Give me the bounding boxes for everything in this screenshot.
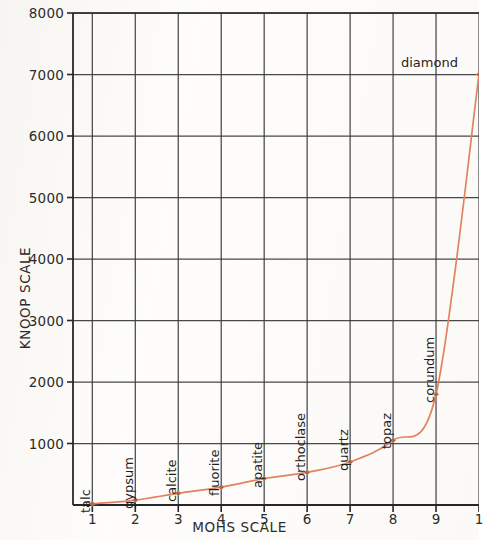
mineral-label-diamond: diamond bbox=[401, 55, 458, 70]
mineral-label-gypsum: gypsum bbox=[121, 457, 136, 509]
data-marker bbox=[476, 72, 479, 77]
mineral-label-orthoclase: orthoclase bbox=[293, 413, 308, 481]
x-axis-title: MOHS SCALE bbox=[0, 519, 479, 535]
mineral-label-talc: talc bbox=[78, 489, 93, 513]
data-curve bbox=[92, 75, 479, 504]
y-tick-label: 4000 bbox=[2, 251, 64, 267]
y-tick-label: 5000 bbox=[2, 190, 64, 206]
mineral-label-apatite: apatite bbox=[250, 442, 265, 488]
gridlines bbox=[73, 13, 479, 505]
y-axis-title: KNOOP SCALE bbox=[17, 238, 33, 358]
y-tick-label: 2000 bbox=[2, 374, 64, 390]
y-tick-label: 8000 bbox=[2, 5, 64, 21]
x-tick-marks bbox=[92, 505, 479, 512]
mineral-label-calcite: calcite bbox=[164, 460, 179, 503]
mineral-label-quartz: quartz bbox=[336, 429, 351, 471]
mineral-label-topaz: topaz bbox=[379, 413, 394, 449]
y-tick-label: 7000 bbox=[2, 67, 64, 83]
y-tick-label: 6000 bbox=[2, 128, 64, 144]
y-tick-label: 3000 bbox=[2, 313, 64, 329]
mineral-label-corundum: corundum bbox=[422, 337, 437, 403]
y-tick-label: 1000 bbox=[2, 436, 64, 452]
data-markers bbox=[90, 72, 479, 506]
mineral-label-fluorite: fluorite bbox=[207, 450, 222, 496]
